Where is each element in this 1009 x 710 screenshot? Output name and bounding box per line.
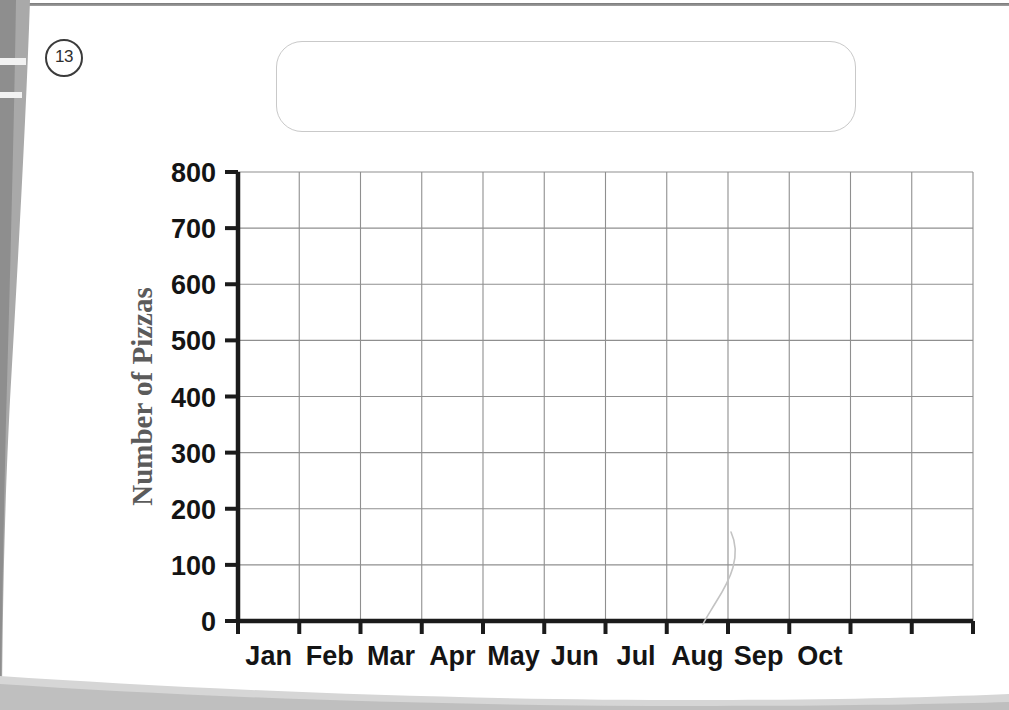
worksheet-page: 13 8007006005004003002001000JanFebMarApr… xyxy=(0,0,1009,710)
y-axis-tick-label: 600 xyxy=(171,270,216,300)
y-axis-tick-label: 100 xyxy=(171,551,216,581)
y-axis-tick-label: 700 xyxy=(171,214,216,244)
chart-svg: 8007006005004003002001000JanFebMarAprMay… xyxy=(0,0,1009,710)
y-axis-tick-label: 400 xyxy=(171,383,216,413)
y-axis-tick-label: 500 xyxy=(171,326,216,356)
bar-chart-blank-grid: 8007006005004003002001000JanFebMarAprMay… xyxy=(0,0,1009,710)
y-axis-tick-label: 0 xyxy=(201,607,216,637)
y-axis-tick-label: 300 xyxy=(171,439,216,469)
pencil-stray-mark-artifact xyxy=(703,532,735,624)
scan-bottom-edge-shadow xyxy=(0,650,1009,710)
y-axis-tick-label: 200 xyxy=(171,495,216,525)
y-axis-tick-label: 800 xyxy=(171,158,216,188)
y-axis-title: Number of Pizzas xyxy=(126,287,158,506)
